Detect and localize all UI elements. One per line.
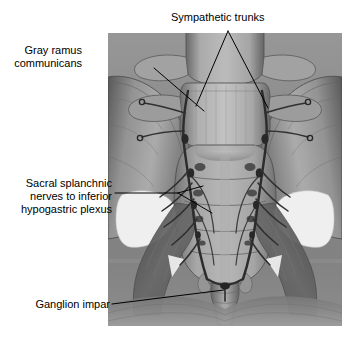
label-ganglion-impar-line-1: Ganglion impar bbox=[35, 298, 110, 310]
label-sacral-splanchnic-nerves: Sacral splanchnicnerves to inferiorhypog… bbox=[21, 177, 112, 216]
label-sympathetic-trunks: Sympathetic trunks bbox=[171, 11, 265, 24]
label-sacral-splanchnic-line-1: Sacral splanchnic bbox=[26, 177, 112, 189]
label-sympathetic-trunks-line-1: Sympathetic trunks bbox=[171, 11, 265, 23]
label-sacral-splanchnic-line-2: nerves to inferior bbox=[30, 190, 112, 202]
label-ganglion-impar: Ganglion impar bbox=[35, 298, 110, 311]
figure-page: Sympathetic trunks Gray ramuscommunicans… bbox=[0, 0, 350, 340]
label-gray-ramus-line-1: Gray ramus bbox=[25, 44, 82, 56]
label-gray-ramus-line-2: communicans bbox=[14, 57, 82, 69]
anatomical-illustration-image bbox=[108, 33, 342, 326]
label-sacral-splanchnic-line-3: hypogastric plexus bbox=[21, 203, 112, 215]
label-gray-ramus-communicans: Gray ramuscommunicans bbox=[14, 44, 82, 70]
